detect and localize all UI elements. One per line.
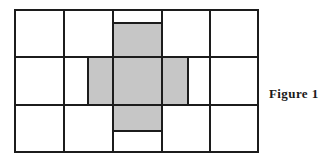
shaded-cross-group — [88, 23, 188, 131]
shaded-cell-left-arm — [88, 57, 113, 105]
figure-container: Figure 1 — [0, 0, 332, 164]
shaded-cell-bottom-arm — [113, 105, 162, 131]
figure-caption: Figure 1 — [269, 86, 319, 102]
shaded-cell-center — [113, 57, 162, 105]
shaded-cell-top-arm — [113, 23, 162, 57]
shaded-cell-right-arm — [162, 57, 188, 105]
grid-diagram — [0, 0, 332, 164]
